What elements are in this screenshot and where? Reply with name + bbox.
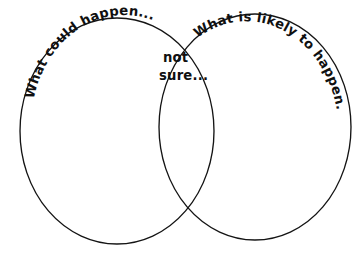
intersection-label-line1: not (163, 50, 188, 65)
left-set-label: What could happen... (22, 3, 157, 100)
venn-diagram-svg: What could happen... What is likely to h… (0, 0, 363, 264)
intersection-label-line2: sure... (159, 68, 208, 83)
venn-diagram-canvas: What could happen... What is likely to h… (0, 0, 363, 264)
